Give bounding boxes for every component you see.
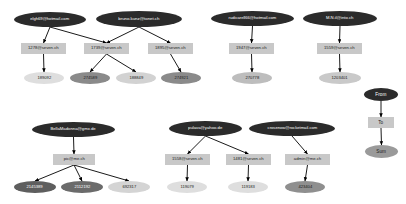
node-label: To [379,120,384,125]
graph-edge [187,165,188,181]
graph-edge [305,165,308,181]
graph-edge [35,165,74,181]
graph-edge [188,136,206,154]
graph-edge [340,26,341,43]
node-label: 274589 [83,76,97,80]
node-label: 274921 [174,76,188,80]
graph-edge [252,26,253,43]
node-label: elgh69@hotmail.com [31,17,70,21]
node-label: 423404 [298,185,312,189]
edge-layer [0,0,406,204]
node-label: pic@me.ch [63,157,84,161]
recipient-node[interactable]: To [368,117,394,128]
graph-edge [74,165,129,181]
sum-node[interactable]: 274589 [70,72,110,84]
diagram-canvas: elgh69@hotmail.combruno.kunz@tonet.chrud… [0,0,406,204]
node-label: 1203401 [332,76,348,80]
sender-node[interactable]: pulava@yahoo.de [169,121,242,136]
node-label: 119183 [241,185,254,189]
recipient-node[interactable]: 1947@seven.ch [229,43,274,54]
graph-edge [248,165,249,181]
node-label: 188849 [129,76,143,80]
recipient-node[interactable]: 1739@seven.ch [84,43,129,54]
recipient-node[interactable]: 1558@seven.ch [165,154,210,165]
sum-node[interactable]: 189092 [24,72,64,84]
sender-node[interactable]: crosenow@rocketmail.com [249,121,335,136]
node-label: 119079 [180,185,193,189]
graph-edge [139,27,171,43]
sum-node[interactable]: 188849 [116,72,156,84]
node-label: bruno.kunz@tonet.ch [118,17,159,21]
node-label: 1739@seven.ch [91,46,122,50]
sum-node[interactable]: 423404 [285,181,325,193]
graph-edge [90,54,107,72]
graph-edge [107,27,140,43]
graph-edge [107,54,137,72]
node-label: 1481@seven.ch [233,157,264,161]
sum-node[interactable]: 119079 [167,181,207,193]
node-label: M.N.il@into.ch [326,16,354,20]
node-label: 692317 [122,185,136,189]
sum-node[interactable]: 119183 [228,181,268,193]
sum-node[interactable]: Sum [365,145,398,158]
recipient-node[interactable]: admin@me.ch [285,154,330,165]
node-label: 1895@seven.ch [155,46,186,50]
recipient-node[interactable]: 1481@seven.ch [226,154,271,165]
node-label: rudicarell66@hotmail.com [229,16,277,20]
recipient-node[interactable]: 1559@seven.ch [317,43,362,54]
node-label: 1559@seven.ch [324,46,355,50]
node-label: 2145389 [27,185,43,189]
graph-edge [252,54,253,72]
node-label: 189092 [37,76,51,80]
node-label: admin@me.ch [294,157,321,161]
node-label: 1558@seven.ch [172,157,203,161]
sender-node[interactable]: From [364,88,398,101]
recipient-node[interactable]: 1895@seven.ch [148,43,193,54]
node-label: crosenow@rocketmail.com [267,126,317,130]
sum-node[interactable]: 692317 [108,181,150,193]
graph-edge [292,136,308,154]
sender-node[interactable]: elgh69@hotmail.com [14,12,86,27]
graph-edge [44,27,51,43]
graph-edge [74,137,75,154]
graph-edge [44,54,45,72]
sender-node[interactable]: bruno.kunz@tonet.ch [96,11,182,27]
sender-node[interactable]: BellaMadonna@gmx.de [32,122,115,137]
sum-node[interactable]: 274921 [161,72,201,84]
node-label: BellaMadonna@gmx.de [51,127,96,131]
graph-edge [50,27,107,43]
sender-node[interactable]: M.N.il@into.ch [303,11,377,26]
sender-node[interactable]: rudicarell66@hotmail.com [211,11,294,26]
node-label: Sum [377,149,387,154]
recipient-node[interactable]: 1278@seven.ch [21,43,66,54]
node-label: 270778 [245,76,259,80]
sum-node[interactable]: 2112192 [61,181,103,193]
node-label: pulava@yahoo.de [188,126,222,130]
node-label: 1278@seven.ch [28,46,59,50]
sum-node[interactable]: 270778 [232,72,272,84]
node-label: 2112192 [74,185,90,189]
sum-node[interactable]: 2145389 [14,181,56,193]
node-label: 1947@seven.ch [236,46,267,50]
graph-edge [206,136,249,154]
graph-edge [340,54,341,72]
recipient-node[interactable]: pic@me.ch [53,154,95,165]
graph-edge [171,54,182,72]
sum-node[interactable]: 1203401 [319,72,361,84]
graph-edge [381,128,382,145]
node-label: From [376,92,387,97]
graph-edge [74,165,82,181]
